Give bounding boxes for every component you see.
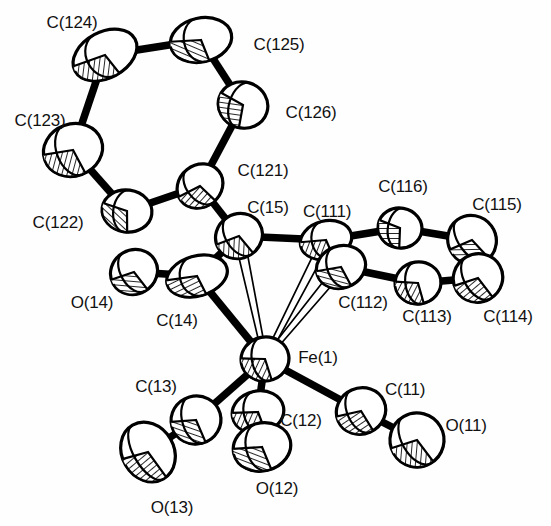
atom-label-C123: C(123) [15,112,66,129]
ortep-canvas [0,0,551,526]
atom-ellipsoid-C122 [94,186,155,240]
atom-label-C124: C(124) [47,14,98,31]
atom-label-C13: C(13) [135,378,177,395]
atom-layer [30,12,514,500]
atom-label-C126: C(126) [286,104,337,121]
atom-label-O12: O(12) [256,480,298,497]
atom-label-C125: C(125) [254,36,305,53]
atom-ellipsoid-C125 [160,12,237,74]
atom-label-C12: C(12) [280,412,322,429]
atom-label-C111: C(111) [303,203,351,220]
atom-label-C121: C(121) [238,162,289,179]
atom-label-C114: C(114) [483,308,533,325]
atom-label-C115: C(115) [472,196,522,213]
atom-label-C112: C(112) [338,294,388,311]
atom-ellipsoid-C116 [370,204,425,256]
atom-label-C122: C(122) [33,214,84,231]
atom-label-O13: O(13) [151,499,193,516]
atom-label-C113: C(113) [402,308,452,325]
atom-ellipsoid-C126 [206,74,274,139]
atom-label-O11: O(11) [445,417,486,434]
atom-label-Fe1: Fe(1) [298,349,338,366]
atom-label-C11: C(11) [385,381,425,398]
atom-label-C14: C(14) [156,312,198,329]
atom-label-O14: O(14) [71,294,113,311]
atom-label-C15: C(15) [247,199,289,216]
ortep-figure: C(124)C(125)C(126)C(123)C(122)C(121)C(15… [0,0,551,526]
atom-label-C116: C(116) [378,178,428,195]
atom-ellipsoid-C113 [388,259,444,312]
